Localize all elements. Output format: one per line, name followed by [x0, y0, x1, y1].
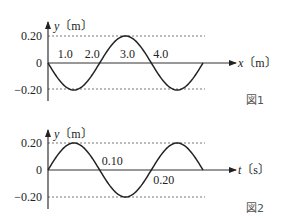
figure-2: y〔m〕 t〔s〕 0.200−0.20 0.100.20 図2	[14, 127, 270, 215]
fig1-caption: 図1	[246, 94, 264, 107]
y-tick-label: 0.20	[21, 136, 42, 150]
y-tick-label: −0.20	[14, 190, 42, 204]
fig2-y-axis-label: y〔m〕	[53, 127, 93, 141]
x-tick-label: 0.10	[102, 154, 123, 168]
x-tick-label: 0.20	[153, 173, 174, 187]
figure-1: y〔m〕 x〔m〕 0.200−0.20 1.02.03.04.0 図1	[14, 19, 276, 107]
fig2-t-axis-label: t〔s〕	[238, 163, 270, 177]
x-tick-label: 3.0	[120, 47, 135, 61]
fig2-t-unit: 〔s〕	[241, 163, 270, 177]
fig1-x-unit: 〔m〕	[243, 56, 276, 70]
fig1-y-tick-labels: 0.200−0.20	[14, 29, 42, 97]
fig1-x-axis-label: x〔m〕	[237, 56, 277, 70]
wave-figures: y〔m〕 x〔m〕 0.200−0.20 1.02.03.04.0 図1 y〔m…	[0, 0, 285, 220]
fig1-x-tick-labels: 1.02.03.04.0	[58, 47, 168, 61]
fig2-y-tick-labels: 0.200−0.20	[14, 136, 42, 204]
y-tick-label: −0.20	[14, 83, 42, 97]
x-tick-label: 4.0	[153, 47, 168, 61]
fig2-y-unit: 〔m〕	[59, 127, 92, 141]
fig1-y-axis-label: y〔m〕	[53, 19, 93, 33]
x-tick-label: 2.0	[85, 47, 100, 61]
x-tick-label: 1.0	[58, 47, 73, 61]
y-tick-label: 0	[36, 56, 42, 70]
y-tick-label: 0	[36, 163, 42, 177]
fig1-y-unit: 〔m〕	[59, 19, 92, 33]
fig2-caption: 図2	[246, 202, 264, 215]
y-tick-label: 0.20	[21, 29, 42, 43]
